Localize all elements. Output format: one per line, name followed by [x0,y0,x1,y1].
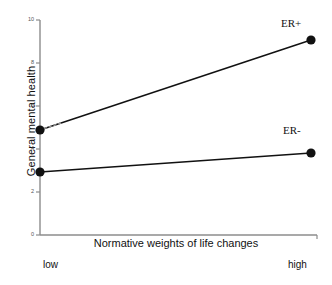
x-tick-label-high: high [288,259,307,270]
series-line-er-plus [40,40,311,130]
data-point-er-minus-low [35,167,44,176]
series-label-er-plus: ER+ [281,17,301,29]
series-line-er-minus [40,153,311,172]
chart-figure: General mental health 10 8 6 4 2 0 [0,0,332,285]
data-point-er-plus-high [306,35,315,44]
x-axis-title: Normative weights of life changes [40,237,312,249]
data-point-er-minus-high [306,148,315,157]
data-point-er-plus-low [35,125,44,134]
series-label-er-minus: ER- [283,124,301,136]
x-tick-label-low: low [43,259,58,270]
